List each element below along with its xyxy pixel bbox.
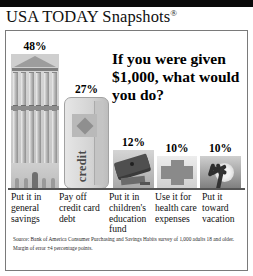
- bar-vacation: [200, 156, 241, 189]
- card-hologram: [72, 114, 97, 137]
- bar-column-vacation: 10%: [200, 156, 241, 189]
- credit-card-icon: credit: [64, 97, 109, 189]
- cross-vertical: [171, 160, 184, 185]
- bar-education-fund: [113, 150, 154, 189]
- chart-question-title: If you were given $1,000, what would you…: [112, 50, 244, 104]
- bar-value-label-education-fund: 12%: [113, 136, 154, 150]
- chart-plot-area: If you were given $1,000, what would you…: [6, 31, 247, 231]
- bar-value-label-health-care: 10%: [157, 142, 197, 156]
- medical-cross-icon: [157, 156, 197, 189]
- masthead-text: USA TODAY Snapshots: [6, 7, 170, 26]
- bar-health-care: [157, 156, 197, 189]
- masthead-title: USA TODAY Snapshots®: [6, 7, 177, 27]
- category-label-education-fund: Put it in children's education fund: [109, 192, 153, 235]
- bar-value-label-vacation: 10%: [200, 142, 241, 156]
- category-label-credit-card-debt: Pay off credit card debt: [59, 192, 106, 224]
- registered-trademark-icon: ®: [170, 8, 177, 18]
- cap-button: [130, 162, 134, 166]
- architrave-shape: [12, 68, 58, 71]
- building-door: [32, 172, 38, 189]
- palm-tree-icon: [200, 156, 241, 189]
- graduation-cap-icon: [113, 150, 154, 189]
- bar-column-health-care: 10%: [157, 156, 197, 189]
- usa-today-snapshot: USA TODAY Snapshots® If you were given $…: [0, 0, 253, 276]
- cap-tassel: [140, 182, 150, 185]
- bar-general-savings: [11, 54, 59, 189]
- bar-credit-card-debt: credit: [64, 97, 109, 189]
- category-label-general-savings: Put it in general savings: [11, 192, 57, 224]
- category-label-vacation: Put it toward vacation: [202, 192, 244, 224]
- source-note: Source: Bank of America Consumer Purchas…: [13, 235, 241, 252]
- bar-value-label-credit-card-debt: 27%: [64, 83, 109, 97]
- bar-column-general-savings: 48%: [11, 54, 59, 189]
- bank-building-icon: [11, 54, 59, 189]
- column-row-upper: [13, 72, 57, 106]
- pediment-shape: [11, 54, 59, 69]
- bar-value-label-general-savings: 48%: [11, 40, 59, 54]
- card-word-label: credit: [75, 150, 90, 182]
- building-base: [11, 163, 59, 189]
- category-label-health-care: Use it for health care expenses: [155, 192, 199, 224]
- bar-column-education-fund: 12%: [113, 150, 154, 189]
- top-black-bar: [0, 0, 253, 7]
- bar-column-credit-card-debt: 27% credit: [64, 97, 109, 189]
- category-label-row: Put it in general savings Pay off credit…: [6, 190, 247, 231]
- chart-panel: If you were given $1,000, what would you…: [5, 30, 248, 271]
